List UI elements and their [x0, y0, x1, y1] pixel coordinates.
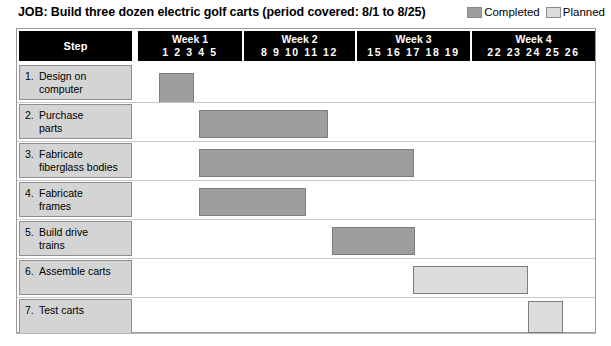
step-label-line2-2: parts	[39, 122, 127, 135]
legend-item-planned: Planned	[546, 6, 605, 18]
step-number-7: 7.	[25, 304, 39, 316]
step-number-2: 2.	[25, 109, 39, 121]
step-cell-7[interactable]: 7.Test carts	[19, 299, 132, 334]
week-days-1: 1 2 3 4 5	[138, 46, 242, 59]
step-cell-2[interactable]: 2.Purchaseparts	[19, 104, 132, 139]
legend-swatch-planned	[546, 7, 561, 18]
step-label-line2-3: fiberglass bodies	[39, 161, 127, 174]
step-label-line1-3: Fabricate	[39, 148, 127, 161]
column-header-week-2: Week 28 9 10 11 12	[244, 31, 355, 61]
step-number-1: 1.	[25, 70, 39, 82]
gantt-bar-5-completed[interactable]	[332, 227, 415, 255]
step-label-line1-1: Design on	[39, 70, 127, 83]
column-header-week-3: Week 315 16 17 18 19	[357, 31, 470, 61]
step-number-3: 3.	[25, 148, 39, 160]
row-separator	[17, 297, 595, 298]
step-label-7: Test carts	[39, 304, 127, 317]
step-number-6: 6.	[25, 265, 39, 277]
row-separator	[17, 102, 595, 103]
step-label-2: Purchaseparts	[39, 109, 127, 135]
step-label-line2-1: computer	[39, 83, 127, 96]
gantt-header-band: StepWeek 11 2 3 4 5Week 28 9 10 11 12Wee…	[17, 29, 595, 62]
step-label-3: Fabricatefiberglass bodies	[39, 148, 127, 174]
column-header-week-4: Week 422 23 24 25 26	[472, 31, 595, 61]
column-header-week-1: Week 11 2 3 4 5	[138, 31, 242, 61]
step-label-line1-6: Assemble carts	[39, 265, 127, 278]
step-label-line1-4: Fabricate	[39, 187, 127, 200]
legend-label-completed: Completed	[484, 6, 540, 18]
gantt-bar-6-planned[interactable]	[413, 266, 528, 294]
row-separator	[17, 141, 595, 142]
step-label-4: Fabricateframes	[39, 187, 127, 213]
legend-label-planned: Planned	[563, 6, 605, 18]
column-header-step: Step	[19, 31, 132, 61]
legend-item-completed: Completed	[467, 6, 540, 18]
week-name-2: Week 2	[244, 31, 355, 46]
step-cell-6[interactable]: 6.Assemble carts	[19, 260, 132, 295]
row-separator	[17, 180, 595, 181]
gantt-bar-7-planned[interactable]	[528, 301, 563, 333]
week-name-1: Week 1	[138, 31, 242, 46]
week-name-3: Week 3	[357, 31, 470, 46]
row-separator	[17, 258, 595, 259]
gantt-bar-4-completed[interactable]	[199, 188, 306, 216]
gantt-bar-3-completed[interactable]	[199, 149, 414, 177]
step-label-line2-5: trains	[39, 239, 127, 252]
gantt-bar-2-completed[interactable]	[199, 110, 328, 138]
step-number-5: 5.	[25, 226, 39, 238]
step-cell-1[interactable]: 1.Design oncomputer	[19, 65, 132, 100]
row-separator	[17, 219, 595, 220]
page-title: JOB: Build three dozen electric golf car…	[18, 5, 426, 19]
step-label-5: Build drivetrains	[39, 226, 127, 252]
legend: CompletedPlanned	[467, 6, 605, 18]
week-days-3: 15 16 17 18 19	[357, 46, 470, 59]
week-name-4: Week 4	[472, 31, 595, 46]
step-cell-5[interactable]: 5.Build drivetrains	[19, 221, 132, 256]
legend-swatch-completed	[467, 7, 482, 18]
step-label-6: Assemble carts	[39, 265, 127, 278]
step-number-4: 4.	[25, 187, 39, 199]
step-label-line2-4: frames	[39, 200, 127, 213]
bottom-rule	[16, 333, 596, 334]
title-row: JOB: Build three dozen electric golf car…	[0, 0, 611, 26]
step-label-1: Design oncomputer	[39, 70, 127, 96]
column-header-step-label: Step	[19, 31, 132, 61]
step-label-line1-7: Test carts	[39, 304, 127, 317]
step-cell-4[interactable]: 4.Fabricateframes	[19, 182, 132, 217]
step-cell-3[interactable]: 3.Fabricatefiberglass bodies	[19, 143, 132, 178]
gantt-chart: StepWeek 11 2 3 4 5Week 28 9 10 11 12Wee…	[16, 28, 596, 333]
week-days-2: 8 9 10 11 12	[244, 46, 355, 59]
step-label-line1-5: Build drive	[39, 226, 127, 239]
week-days-4: 22 23 24 25 26	[472, 46, 595, 59]
gantt-bar-1-completed[interactable]	[159, 73, 194, 103]
step-label-line1-2: Purchase	[39, 109, 127, 122]
